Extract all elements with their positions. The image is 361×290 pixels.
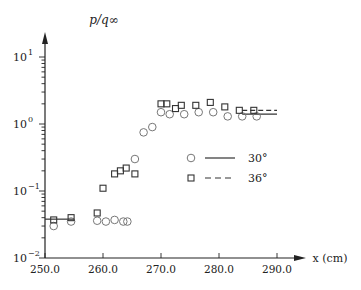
legend-label: 30° — [248, 152, 268, 165]
y-axis-label: p/q∞ — [89, 13, 118, 27]
circle-marker-icon — [224, 113, 232, 121]
y-tick-label: 10 — [13, 252, 27, 265]
square-marker-icon — [158, 101, 164, 107]
x-tick-label: 280.0 — [204, 263, 234, 275]
circle-marker-icon — [209, 108, 217, 116]
circle-marker-icon — [180, 110, 188, 118]
square-marker-icon — [117, 168, 123, 174]
y-axis-arrow-icon — [42, 32, 48, 44]
square-marker-icon — [164, 101, 170, 107]
square-marker-icon — [100, 185, 106, 191]
x-tick-label: 290.0 — [262, 263, 292, 275]
axes — [42, 32, 306, 261]
square-marker-icon — [193, 102, 199, 108]
legend-label: 36° — [248, 172, 268, 185]
square-marker-icon — [94, 210, 100, 216]
square-marker-icon — [222, 104, 228, 110]
circle-marker-icon — [140, 129, 148, 137]
square-marker-icon — [123, 165, 129, 171]
circle-marker-icon — [195, 108, 203, 116]
x-axis-arrow-icon — [294, 255, 306, 261]
y-tick-label: 10 — [13, 118, 27, 131]
circle-marker-icon — [111, 216, 119, 224]
y-tick-exponent: −1 — [28, 182, 40, 191]
circle-marker-icon — [157, 108, 165, 116]
chart-canvas: 10−210−1100101250.0260.0270.0280.0290.0 … — [0, 0, 361, 290]
circle-marker-icon — [131, 155, 139, 163]
circle-marker-icon — [149, 123, 157, 131]
square-marker-icon — [173, 106, 179, 112]
y-tick-label: 10 — [13, 51, 27, 64]
legend-square-icon — [188, 175, 194, 181]
x-tick-label: 260.0 — [88, 263, 118, 275]
x-tick-label: 270.0 — [146, 263, 176, 275]
series-lines — [45, 110, 277, 219]
y-tick-exponent: 0 — [28, 115, 33, 124]
legend: 30°36° — [187, 152, 267, 185]
square-marker-icon — [178, 102, 184, 108]
x-axis-label: x (cm) — [313, 252, 348, 265]
y-tick-exponent: −2 — [28, 249, 40, 258]
y-tick-exponent: 1 — [28, 48, 33, 57]
y-tick-label: 10 — [13, 185, 27, 198]
circle-marker-icon — [102, 218, 110, 226]
legend-circle-icon — [187, 154, 195, 162]
circle-marker-icon — [93, 217, 101, 225]
square-marker-icon — [112, 171, 118, 177]
square-marker-icon — [132, 171, 138, 177]
x-tick-label: 250.0 — [30, 263, 60, 275]
square-marker-icon — [207, 99, 213, 105]
data-points — [50, 99, 261, 229]
